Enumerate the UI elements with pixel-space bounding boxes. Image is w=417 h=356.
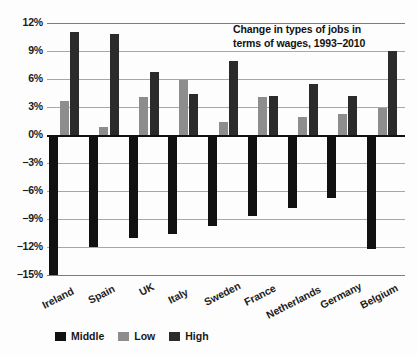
category-label-france: France bbox=[242, 282, 278, 308]
bar-ireland-high bbox=[70, 32, 79, 135]
bar-germany-middle bbox=[327, 135, 336, 198]
category-label-uk: UK bbox=[137, 280, 156, 297]
bar-uk-middle bbox=[129, 135, 138, 238]
category-label-germany: Germany bbox=[318, 280, 363, 311]
bar-sweden-low bbox=[219, 122, 228, 135]
legend-swatch-high-icon bbox=[169, 332, 180, 341]
legend-label-low: Low bbox=[134, 330, 155, 342]
legend-label-high: High bbox=[185, 330, 208, 342]
chart-legend: MiddleLowHigh bbox=[55, 330, 209, 342]
legend-label-middle: Middle bbox=[71, 330, 104, 342]
y-tick-3: 3% bbox=[0, 100, 43, 112]
bar-belgium-low bbox=[378, 108, 387, 135]
category-label-sweden: Sweden bbox=[202, 280, 242, 308]
bar-belgium-middle bbox=[367, 135, 376, 249]
chart-title-line-2: terms of wages, 1993–2010 bbox=[233, 36, 403, 50]
x-axis-category-labels: IrelandSpainUKItalySwedenFranceNetherlan… bbox=[0, 276, 417, 326]
y-tick-neg9: −9% bbox=[0, 212, 43, 224]
bar-group-belgium bbox=[367, 23, 407, 275]
bar-france-high bbox=[269, 96, 278, 135]
bar-group-spain bbox=[89, 23, 129, 275]
bar-spain-high bbox=[110, 34, 119, 135]
bar-group-uk bbox=[129, 23, 169, 275]
legend-swatch-middle-icon bbox=[55, 332, 66, 341]
category-label-ireland: Ireland bbox=[40, 285, 76, 311]
bar-group-ireland bbox=[49, 23, 89, 275]
bar-netherlands-middle bbox=[288, 135, 297, 208]
bar-france-low bbox=[258, 97, 267, 135]
y-tick-6: 6% bbox=[0, 72, 43, 84]
bar-ireland-low bbox=[60, 101, 69, 135]
bar-sweden-middle bbox=[208, 135, 217, 226]
y-tick-neg3: −3% bbox=[0, 156, 43, 168]
legend-item-low[interactable]: Low bbox=[118, 330, 155, 342]
category-label-spain: Spain bbox=[86, 282, 116, 305]
legend-swatch-low-icon bbox=[118, 332, 129, 341]
bar-belgium-high bbox=[388, 51, 397, 135]
bar-group-sweden bbox=[208, 23, 248, 275]
y-tick-12: 12% bbox=[0, 16, 43, 28]
bar-ireland-middle bbox=[49, 135, 58, 275]
bar-italy-low bbox=[179, 80, 188, 135]
bar-group-france bbox=[248, 23, 288, 275]
bar-group-italy bbox=[168, 23, 208, 275]
bar-germany-high bbox=[348, 96, 357, 135]
chart-title-line-1: Change in types of jobs in bbox=[233, 22, 403, 36]
y-axis-tick-labels: 12%9%6%3%0%−3%−6%−9%−12%−15% bbox=[0, 23, 43, 275]
bar-spain-low bbox=[99, 127, 108, 135]
legend-item-high[interactable]: High bbox=[169, 330, 208, 342]
bar-france-middle bbox=[248, 135, 257, 216]
bar-netherlands-high bbox=[309, 84, 318, 135]
category-label-italy: Italy bbox=[166, 286, 190, 306]
plot-area bbox=[47, 23, 405, 275]
bar-sweden-high bbox=[229, 61, 238, 135]
bar-spain-middle bbox=[89, 135, 98, 247]
bar-uk-high bbox=[150, 72, 159, 135]
y-tick-0: 0% bbox=[0, 128, 43, 140]
bar-italy-middle bbox=[168, 135, 177, 234]
y-tick-neg12: −12% bbox=[0, 240, 43, 252]
legend-item-middle[interactable]: Middle bbox=[55, 330, 104, 342]
category-label-belgium: Belgium bbox=[358, 282, 400, 311]
bar-uk-low bbox=[139, 97, 148, 135]
bar-group-netherlands bbox=[288, 23, 328, 275]
chart-title: Change in types of jobs in terms of wage… bbox=[233, 22, 403, 50]
bar-germany-low bbox=[338, 114, 347, 135]
bar-netherlands-low bbox=[298, 117, 307, 135]
bar-group-germany bbox=[327, 23, 367, 275]
y-tick-neg6: −6% bbox=[0, 184, 43, 196]
y-tick-9: 9% bbox=[0, 44, 43, 56]
bar-chart: 12%9%6%3%0%−3%−6%−9%−12%−15% IrelandSpai… bbox=[0, 0, 417, 356]
bar-italy-high bbox=[189, 94, 198, 135]
